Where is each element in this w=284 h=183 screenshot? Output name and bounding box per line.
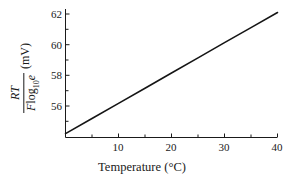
x-tick-label-40: 40 <box>266 142 284 153</box>
x-tick-label-30: 30 <box>213 142 235 153</box>
denominator-subscript: 10 <box>31 80 40 88</box>
y-axis-numerator: RT <box>9 84 23 102</box>
y-axis-denominator: Flog10e <box>24 73 41 113</box>
x-axis-title: Temperature (°C) <box>0 160 284 174</box>
x-tick-label-20: 20 <box>160 142 182 153</box>
chart-figure: 56 58 60 62 10 20 30 40 Temperature (°C)… <box>0 0 284 183</box>
x-axis-title-text: Temperature <box>98 160 161 174</box>
denominator-e: e <box>24 75 38 80</box>
denominator-log: log <box>24 88 38 103</box>
y-axis-fraction: RT Flog10e <box>9 73 40 113</box>
y-axis-unit: (mV) <box>19 43 31 69</box>
data-series-line <box>66 12 278 133</box>
x-axis-unit: (°C) <box>164 160 186 174</box>
y-axis-title: RT Flog10e (mV) <box>2 18 48 138</box>
x-tick-label-10: 10 <box>107 142 129 153</box>
denominator-F: F <box>24 104 38 111</box>
